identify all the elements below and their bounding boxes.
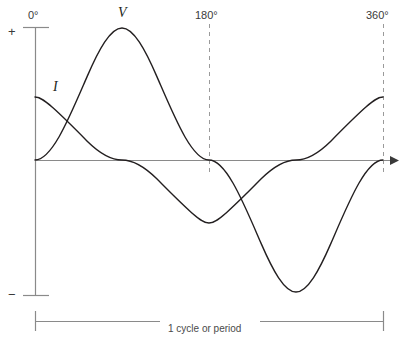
voltage-curve-label: V (118, 6, 127, 20)
negative-polarity-label: − (8, 288, 16, 301)
waveform-svg (0, 0, 399, 338)
tick-label-180deg: 180° (195, 10, 218, 21)
current-curve-label: I (53, 80, 58, 94)
tick-label-360deg: 360° (366, 10, 389, 21)
tick-label-0deg: 0° (28, 10, 39, 21)
positive-polarity-label: + (8, 25, 16, 38)
cycle-period-caption: 1 cycle or period (168, 324, 241, 334)
amplitude-axis (23, 27, 49, 296)
zero-axis-arrowhead (390, 156, 399, 165)
waveform-figure: 0° 180° 360° V I + − 1 cycle or period (0, 0, 399, 338)
